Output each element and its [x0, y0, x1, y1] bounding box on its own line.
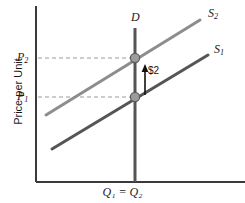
series-label-s1: S1 [214, 43, 224, 55]
equilibrium-point-lower [130, 92, 139, 101]
chart-canvas [0, 0, 245, 203]
equilibrium-point-upper [130, 53, 139, 62]
y-axis-title: Price per Unit [13, 44, 24, 140]
x-axis-title: Q₁ = Q₂ [0, 186, 245, 198]
price-shift-annotation: $2 [148, 66, 159, 76]
supply-curve-s1 [52, 55, 208, 149]
series-label-d: D [131, 11, 140, 23]
supply-curve-s2 [46, 20, 200, 115]
supply-demand-chart: S2 S1 D P2 P1 Q₁ = Q₂ $2 Price per Unit [0, 0, 245, 203]
series-label-s2: S2 [208, 7, 218, 19]
